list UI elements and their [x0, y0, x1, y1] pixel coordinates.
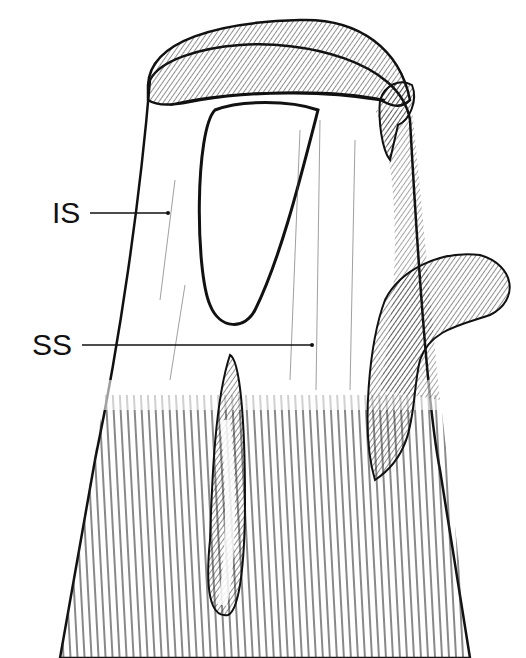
figure-drawing	[0, 0, 526, 658]
label-is: IS	[52, 198, 80, 228]
anatomical-figure: IS SS	[0, 0, 526, 658]
label-ss: SS	[32, 330, 72, 360]
